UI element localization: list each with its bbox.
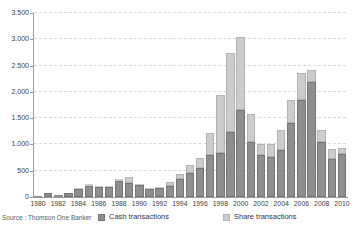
bar-1985-share-segment	[85, 184, 93, 186]
x-axis-tick-label: 2002	[250, 200, 272, 208]
bar-1980-cash-segment	[34, 196, 42, 197]
x-axis-tick-label: 2000	[230, 200, 252, 208]
legend-item-share-transactions: Share transactions	[223, 212, 297, 222]
bar-1995-cash-segment	[186, 173, 194, 197]
bar-1999-share-segment	[226, 53, 234, 132]
bar-1996-cash-segment	[196, 168, 204, 197]
cash-legend-swatch-icon	[98, 214, 105, 221]
bar-2005-share-segment	[287, 100, 295, 123]
bar-2001-cash-segment	[247, 142, 255, 197]
bar-1984-share-segment	[74, 188, 82, 189]
bar-1991-cash-segment	[145, 189, 153, 197]
bar-1984-cash-segment	[74, 189, 82, 197]
bar-1989-share-segment	[125, 177, 133, 183]
bar-1997-share-segment	[206, 133, 214, 155]
bar-2007-share-segment	[307, 70, 315, 83]
bar-1998-share-segment	[216, 95, 224, 152]
x-axis-line	[33, 197, 348, 198]
bar-2009-share-segment	[328, 149, 336, 159]
stacked-bar-chart-figure: 05001.0001.5002.0002.5003.0003.500198019…	[0, 0, 354, 229]
bar-2003-cash-segment	[267, 157, 275, 197]
x-axis-tick-label: 2010	[331, 200, 353, 208]
bar-1988-share-segment	[115, 179, 123, 181]
bar-1986-share-segment	[95, 186, 103, 187]
bar-1999-cash-segment	[226, 132, 234, 197]
bar-2008-share-segment	[317, 130, 325, 143]
source-note: Source : Thomson One Banker	[2, 214, 91, 222]
bar-2001-share-segment	[247, 114, 255, 141]
x-axis-tick-label: 1990	[128, 200, 150, 208]
x-axis-tick-label: 2004	[270, 200, 292, 208]
bar-2010-cash-segment	[338, 154, 346, 197]
bar-1985-cash-segment	[85, 186, 93, 197]
bar-2000-share-segment	[236, 37, 244, 111]
bar-1994-share-segment	[176, 174, 184, 179]
bar-2005-cash-segment	[287, 123, 295, 197]
x-axis-tick-label: 1982	[47, 200, 69, 208]
bar-2009-cash-segment	[328, 159, 336, 197]
x-axis-tick-label: 1998	[209, 200, 231, 208]
bar-1981-cash-segment	[44, 193, 52, 197]
x-axis-tick-label: 2008	[311, 200, 333, 208]
bar-2006-cash-segment	[297, 100, 305, 197]
bar-1992-share-segment	[155, 187, 163, 188]
x-axis-tick-label: 1992	[149, 200, 171, 208]
bar-1986-cash-segment	[95, 187, 103, 197]
x-axis-tick-label: 1986	[88, 200, 110, 208]
bar-2002-cash-segment	[257, 155, 265, 197]
bar-2002-share-segment	[257, 144, 265, 155]
gridline-3500	[34, 12, 346, 13]
bar-1996-share-segment	[196, 158, 204, 168]
bar-1998-cash-segment	[216, 153, 224, 197]
x-axis-tick-label: 1988	[108, 200, 130, 208]
share-legend-swatch-icon	[223, 214, 230, 221]
bar-1994-cash-segment	[176, 179, 184, 197]
x-axis-tick-label: 1984	[68, 200, 90, 208]
bar-1987-cash-segment	[105, 187, 113, 197]
y-axis-tick-label: 1.000	[0, 140, 29, 148]
bar-2003-share-segment	[267, 144, 275, 157]
x-axis-tick-label: 1994	[169, 200, 191, 208]
bar-1995-share-segment	[186, 165, 194, 172]
bar-1991-share-segment	[145, 188, 153, 189]
bar-1990-share-segment	[135, 184, 143, 185]
y-axis-tick-label: 3.000	[0, 35, 29, 43]
bar-1988-cash-segment	[115, 181, 123, 197]
legend-label-share: Share transactions	[234, 212, 297, 222]
bar-1997-cash-segment	[206, 155, 214, 197]
bar-1983-cash-segment	[64, 193, 72, 197]
bar-2004-share-segment	[277, 130, 285, 151]
x-axis-tick-label: 2006	[290, 200, 312, 208]
bar-1993-share-segment	[166, 182, 174, 185]
bar-2007-cash-segment	[307, 82, 315, 197]
bar-2000-cash-segment	[236, 110, 244, 197]
x-axis-tick-label: 1996	[189, 200, 211, 208]
bar-2004-cash-segment	[277, 150, 285, 197]
bar-1982-cash-segment	[54, 195, 62, 197]
bar-2008-cash-segment	[317, 142, 325, 197]
bar-1992-cash-segment	[155, 188, 163, 197]
bar-2006-share-segment	[297, 73, 305, 100]
legend-label-cash: Cash transactions	[109, 212, 169, 222]
legend-item-cash-transactions: Cash transactions	[98, 212, 169, 222]
bar-1990-cash-segment	[135, 185, 143, 197]
bar-2010-share-segment	[338, 148, 346, 154]
y-axis-tick-label: 0	[0, 193, 29, 201]
gridline-2500	[34, 65, 346, 66]
bar-1987-share-segment	[105, 186, 113, 187]
y-axis-tick-label: 2.500	[0, 62, 29, 70]
bar-1993-cash-segment	[166, 186, 174, 197]
y-axis-tick-label: 3.500	[0, 9, 29, 17]
bar-1989-cash-segment	[125, 183, 133, 197]
x-axis-tick-label: 1980	[27, 200, 49, 208]
gridline-3000	[34, 38, 346, 39]
y-axis-line	[33, 13, 34, 197]
y-axis-tick-label: 500	[0, 167, 29, 175]
y-axis-tick-label: 2.000	[0, 88, 29, 96]
y-axis-tick-label: 1.500	[0, 114, 29, 122]
